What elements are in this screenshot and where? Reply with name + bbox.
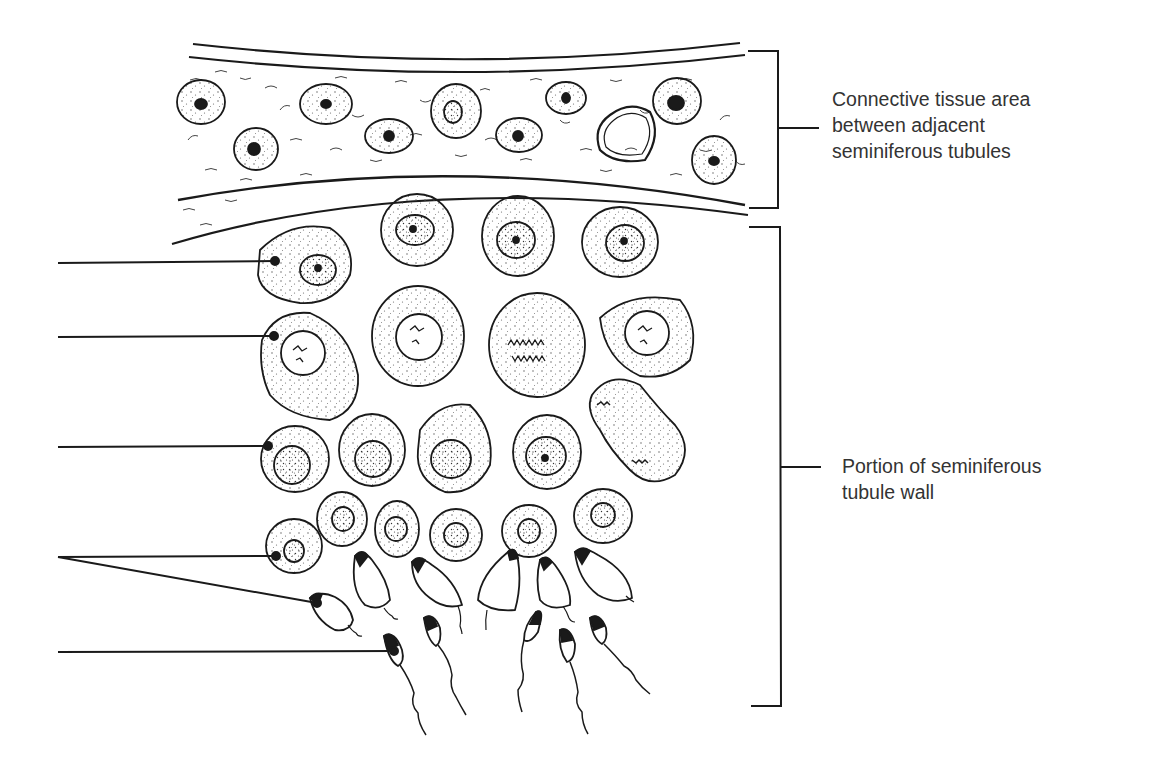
spermatid-5	[538, 557, 576, 622]
sperm-4	[560, 629, 588, 734]
connective-tissue-area	[172, 43, 748, 244]
spermatogonia-row	[258, 194, 658, 303]
spermatid-6	[575, 548, 634, 602]
connective-tissue-label-line-3: seminiferous tubules	[832, 138, 1030, 164]
leader-line-2	[58, 336, 274, 337]
fibroblast-cells	[177, 78, 736, 184]
tubule-wall-label: Portion of seminiferous tubule wall	[842, 453, 1041, 505]
spermatozoa-row	[384, 611, 650, 735]
spermatid-2	[354, 552, 398, 619]
leader-line-1	[58, 261, 275, 263]
late-spermatid-row	[310, 548, 634, 636]
connective-tissue-label: Connective tissue area between adjacent …	[832, 86, 1030, 164]
connective-tissue-label-line-2: between adjacent	[832, 112, 1030, 138]
leader-line-3	[58, 446, 268, 447]
tubule-wall-label-line-2: tubule wall	[842, 479, 1041, 505]
diagram-canvas: Connective tissue area between adjacent …	[0, 0, 1149, 775]
spermatid-4	[478, 550, 519, 630]
tubule-wall-bracket	[749, 227, 821, 706]
sperm-2	[424, 616, 466, 715]
tubule-wall-label-line-1: Portion of seminiferous	[842, 453, 1041, 479]
leader-line-4a	[58, 556, 276, 557]
sperm-3	[518, 611, 541, 712]
connective-tissue-bracket	[748, 51, 819, 208]
leader-line-5	[58, 651, 394, 652]
sperm-5	[590, 616, 650, 694]
connective-tissue-label-line-1: Connective tissue area	[832, 86, 1030, 112]
